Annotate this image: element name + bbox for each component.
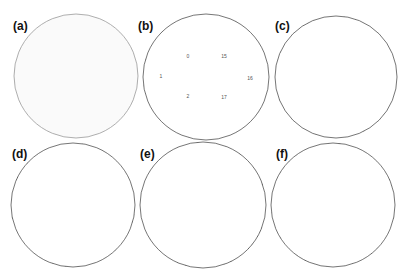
panel-a [14,14,138,138]
panel-b: 101516217 [139,9,273,145]
region-number: 17 [221,94,227,100]
region-number: 16 [247,75,253,81]
panel-e [135,141,271,268]
panel-c [271,11,400,143]
region-number: 15 [221,53,227,59]
panel-d [6,143,140,267]
region-number: 1 [160,73,163,79]
region-number: 2 [187,93,190,99]
region-number: 0 [187,53,190,59]
circle-packing-figure: 101516217 [0,0,408,280]
panel-f [266,142,400,267]
